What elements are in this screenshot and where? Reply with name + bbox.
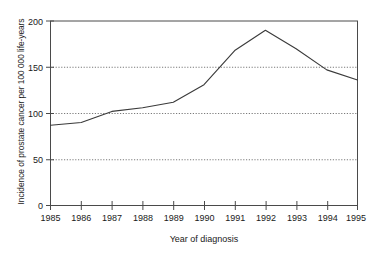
- gridlines: [50, 67, 358, 160]
- x-tick-label-1992: 1992: [256, 213, 276, 223]
- x-tick-label-1985: 1985: [40, 213, 60, 223]
- x-tick-label-1990: 1990: [194, 213, 214, 223]
- y-tick-label-200: 200: [28, 17, 43, 27]
- y-tick-label-150: 150: [28, 63, 43, 73]
- x-tick-label-1993: 1993: [287, 213, 307, 223]
- y-tick-label-50: 50: [33, 155, 43, 165]
- y-tick-label-0: 0: [38, 201, 43, 211]
- x-tick-label-1989: 1989: [164, 213, 184, 223]
- x-tick-label-1986: 1986: [71, 213, 91, 223]
- prostate-cancer-incidence-chart: Incidence of prostate cancer per 100 000…: [0, 0, 379, 254]
- x-tick-label-1991: 1991: [225, 213, 245, 223]
- y-tick-labels: 200 150 100 50 0: [28, 17, 43, 212]
- x-tick-label-1988: 1988: [133, 213, 153, 223]
- y-tick-label-100: 100: [28, 109, 43, 119]
- x-tick-labels: 1985 1986 1987 1988 1989 1990 1991 1992 …: [40, 213, 366, 223]
- x-tick-label-1994: 1994: [318, 213, 338, 223]
- incidence-line-series: [51, 30, 358, 125]
- chart-plot-area: 200 150 100 50 0 1985 1986 1987 1988 198…: [0, 0, 379, 254]
- x-tick-label-1987: 1987: [102, 213, 122, 223]
- x-tick-label-1995: 1995: [346, 213, 366, 223]
- x-axis-title: Year of diagnosis: [50, 234, 358, 244]
